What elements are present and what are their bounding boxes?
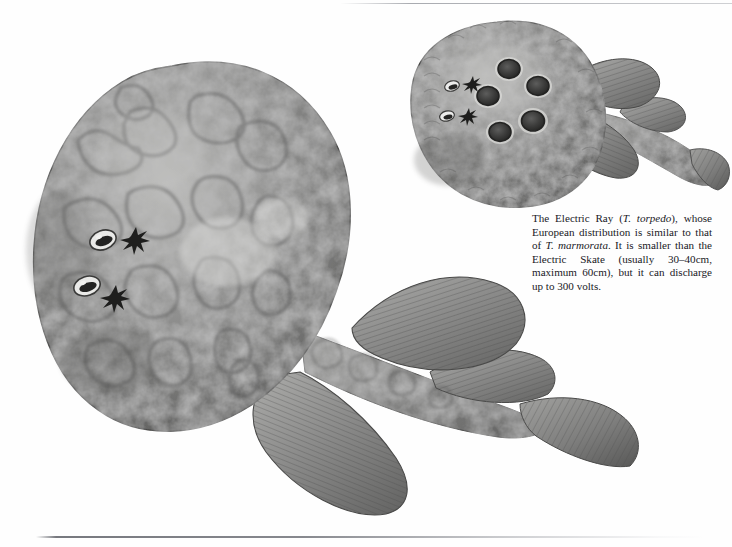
caption-seg-1: The Electric Ray ( xyxy=(532,212,623,224)
caption-species-marmorata: T. marmorata xyxy=(546,239,608,251)
ocellus-3 xyxy=(474,84,502,108)
ocellus-5 xyxy=(486,120,514,144)
ocellus-2 xyxy=(524,74,552,98)
bottom-divider-rule xyxy=(36,536,704,538)
main-ray-first-dorsal-fin xyxy=(352,277,525,370)
ocellus-1 xyxy=(495,57,523,81)
small-electric-ray-figure xyxy=(411,21,730,207)
electric-ray-caption: The Electric Ray (T. torpedo), whose Eur… xyxy=(532,212,712,294)
caption-species-torpedo: T. torpedo xyxy=(623,212,671,224)
ocellus-4 xyxy=(518,108,548,134)
page-canvas: The Electric Ray (T. torpedo), whose Eur… xyxy=(0,0,732,547)
